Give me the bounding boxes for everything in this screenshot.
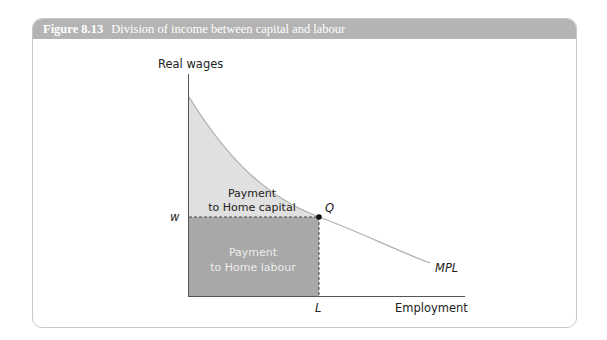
capital-label-line2: to Home capital — [208, 201, 295, 214]
capital-label-line1: Payment — [228, 187, 277, 200]
point-q-marker — [316, 214, 322, 220]
point-q-label: Q — [325, 201, 334, 215]
chart: Real wages Employment w L Q MPL Payment … — [0, 0, 607, 340]
mpl-curve-label: MPL — [435, 261, 458, 275]
labour-label-line1: Payment — [229, 246, 278, 259]
employment-level-label: L — [315, 301, 321, 315]
y-axis-label: Real wages — [158, 57, 223, 71]
labour-label-line2: to Home labour — [210, 261, 296, 274]
wage-label: w — [170, 210, 180, 224]
x-axis-label: Employment — [395, 301, 468, 315]
